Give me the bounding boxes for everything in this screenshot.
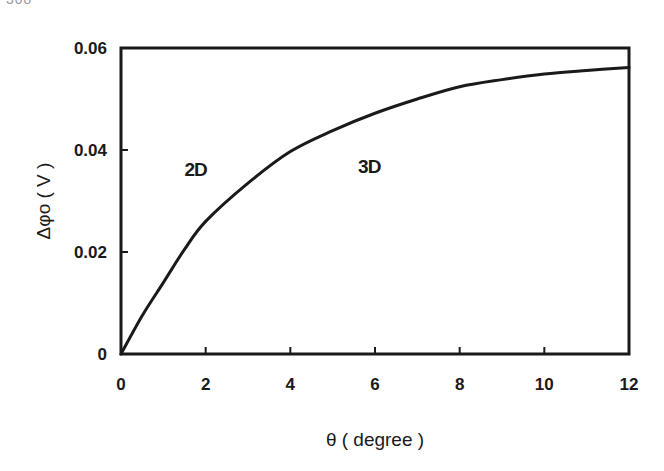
line-chart: 024681012 00.020.040.06 2D3D θ ( degree … [0, 0, 664, 471]
y-tick-labels: 00.020.040.06 [74, 39, 108, 364]
y-tick-label: 0 [98, 345, 107, 364]
y-tick-label: 0.06 [74, 39, 107, 58]
x-axis-title: θ ( degree ) [326, 429, 424, 450]
x-tick-label: 8 [455, 375, 464, 394]
plot-border [121, 48, 629, 354]
x-tick-label: 6 [370, 375, 379, 394]
annotation-3d: 3D [358, 156, 381, 177]
x-tick-label: 4 [286, 375, 296, 394]
x-tick-label: 10 [535, 375, 554, 394]
plot-frame [121, 48, 629, 354]
y-axis-title: Δφo ( V ) [33, 163, 54, 240]
curve-annotations: 2D3D [185, 156, 381, 180]
x-tick-labels: 024681012 [116, 375, 638, 394]
x-tick-label: 2 [201, 375, 210, 394]
data-curve [121, 67, 629, 354]
annotation-2d: 2D [185, 159, 208, 180]
y-tick-label: 0.02 [74, 243, 107, 262]
x-tick-label: 0 [116, 375, 125, 394]
x-tick-label: 12 [620, 375, 639, 394]
y-tick-label: 0.04 [74, 141, 108, 160]
